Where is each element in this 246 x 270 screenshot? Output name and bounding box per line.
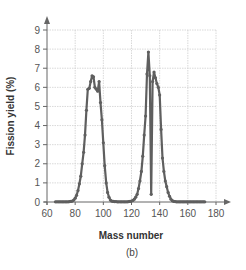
data-point: [75, 194, 78, 197]
data-point: [145, 72, 148, 75]
data-point: [147, 50, 150, 53]
y-tick-label: 5: [34, 101, 40, 112]
data-point: [76, 189, 79, 192]
data-point: [81, 162, 84, 165]
x-tick-label: 160: [179, 208, 196, 219]
data-point: [89, 80, 92, 83]
data-point: [96, 90, 99, 93]
x-tick-label: 140: [151, 208, 168, 219]
data-point: [158, 93, 161, 96]
data-point: [152, 70, 155, 73]
data-point: [159, 128, 162, 131]
figure-caption: (b): [126, 247, 138, 258]
data-point: [150, 193, 153, 196]
data-point: [141, 155, 144, 158]
data-point: [167, 191, 170, 194]
data-point: [106, 191, 109, 194]
data-point: [155, 82, 158, 85]
data-point: [78, 182, 81, 185]
grid-lines: [47, 30, 216, 202]
x-tick-label: 120: [123, 208, 140, 219]
data-point: [165, 185, 168, 188]
y-tick-labels: 0123456789: [34, 25, 40, 208]
series-line-fission-yield: [56, 52, 205, 202]
data-point: [164, 179, 167, 182]
data-point-markers: [54, 50, 206, 203]
x-tick-label: 60: [41, 208, 53, 219]
data-point: [102, 141, 105, 144]
data-point: [144, 114, 147, 117]
data-point: [148, 74, 151, 77]
data-point: [134, 196, 137, 199]
data-point: [98, 80, 101, 83]
data-point: [107, 196, 110, 199]
y-axis-label: Fission yield (%): [5, 77, 16, 156]
x-tick-label: 180: [208, 208, 225, 219]
y-tick-label: 8: [34, 44, 40, 55]
y-tick-label: 9: [34, 25, 40, 36]
y-tick-label: 1: [34, 177, 40, 188]
data-point: [99, 101, 102, 104]
y-tick-label: 4: [34, 120, 40, 131]
data-point: [162, 170, 165, 173]
data-point: [151, 80, 154, 83]
data-point: [82, 151, 85, 154]
y-tick-label: 2: [34, 158, 40, 169]
data-point: [157, 86, 160, 89]
data-point: [136, 193, 139, 196]
y-tick-label: 0: [34, 197, 40, 208]
data-point: [74, 197, 77, 200]
data-point: [100, 118, 103, 121]
y-tick-label: 7: [34, 63, 40, 74]
axes: [43, 16, 231, 205]
data-point: [168, 195, 171, 198]
data-point: [85, 109, 88, 112]
x-tick-label: 100: [95, 208, 112, 219]
y-tick-label: 6: [34, 82, 40, 93]
x-axis-arrow-icon: [224, 199, 231, 205]
data-point: [138, 179, 141, 182]
data-point: [105, 181, 108, 184]
data-point: [79, 175, 82, 178]
data-point: [143, 134, 146, 137]
data-point: [83, 134, 86, 137]
data-point: [203, 200, 206, 203]
x-axis-label: Mass number: [99, 230, 164, 241]
data-point: [92, 75, 95, 78]
fission-yield-chart: 6080100120140160180 0123456789 Mass numb…: [0, 0, 246, 270]
y-axis-arrow-icon: [44, 16, 50, 24]
data-point: [137, 187, 140, 190]
x-tick-labels: 6080100120140160180: [41, 208, 224, 219]
data-point: [161, 156, 164, 159]
x-tick-label: 80: [70, 208, 82, 219]
data-point: [103, 164, 106, 167]
data-point: [88, 87, 91, 90]
data-point: [140, 170, 143, 173]
data-point: [154, 76, 157, 79]
y-tick-label: 3: [34, 139, 40, 150]
